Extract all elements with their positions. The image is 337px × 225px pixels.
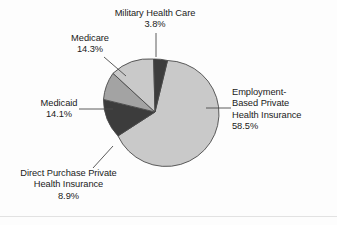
- pie-label-employment-value: 58.5%: [232, 121, 332, 132]
- pie-label-medicare: Medicare 14.3%: [40, 33, 140, 56]
- pie-label-employment: Employment- Based Private Health Insuran…: [232, 87, 332, 133]
- pie-chart-figure: Military Health Care 3.8% Medicare 14.3%…: [0, 0, 337, 225]
- pie-label-military-value: 3.8%: [95, 19, 215, 30]
- pie-slices: [103, 59, 219, 167]
- pie-label-direct-purchase: Direct Purchase Private Health Insurance…: [1, 168, 136, 202]
- pie-label-employment-name-line2: Based Private: [232, 98, 332, 109]
- pie-label-employment-name-line3: Health Insurance: [232, 110, 332, 121]
- bottom-divider: [0, 216, 337, 217]
- pie-label-military-name: Military Health Care: [95, 8, 215, 19]
- pie-label-direct-purchase-value: 8.9%: [1, 191, 136, 202]
- pie-label-medicaid: Medicaid 14.1%: [14, 98, 104, 121]
- pie-label-military: Military Health Care 3.8%: [95, 8, 215, 31]
- pie-label-employment-name-line1: Employment-: [232, 87, 332, 98]
- leader-line-direct-purchase: [93, 146, 113, 168]
- pie-label-direct-purchase-name-line2: Health Insurance: [1, 179, 136, 190]
- pie-label-medicare-value: 14.3%: [40, 44, 140, 55]
- pie-label-medicaid-name: Medicaid: [14, 98, 104, 109]
- pie-label-direct-purchase-name-line1: Direct Purchase Private: [1, 168, 136, 179]
- pie-label-medicare-name: Medicare: [40, 33, 140, 44]
- pie-label-medicaid-value: 14.1%: [14, 109, 104, 120]
